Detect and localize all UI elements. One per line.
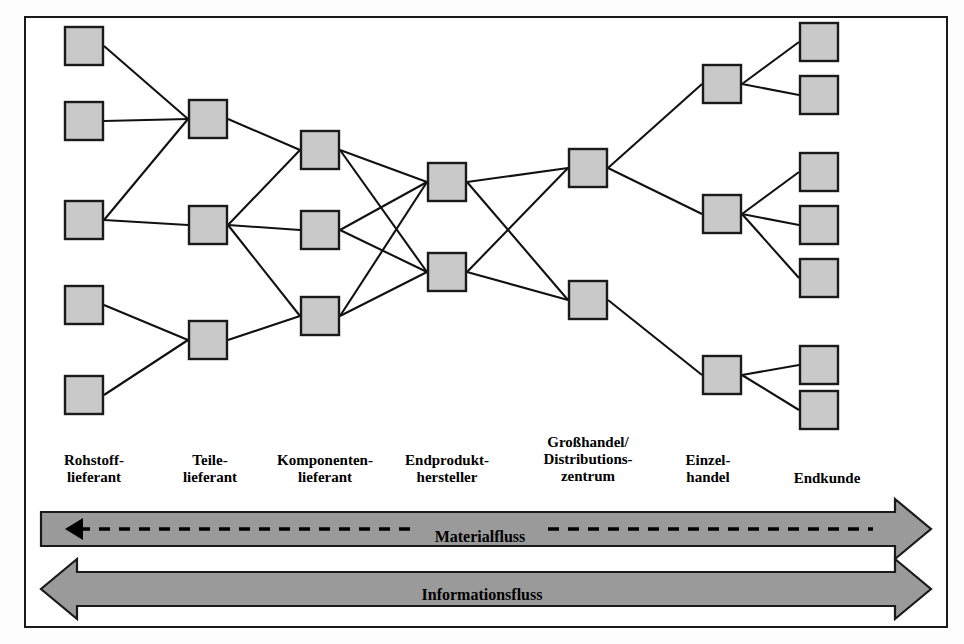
node-e2[interactable] [428, 253, 466, 291]
node-g2[interactable] [569, 281, 607, 319]
node-k1[interactable] [301, 131, 339, 169]
edge-e1-g1 [467, 168, 568, 182]
node-c5[interactable] [800, 259, 838, 297]
node-k2[interactable] [301, 211, 339, 249]
node-box-e2[interactable] [428, 253, 466, 291]
node-c3[interactable] [800, 153, 838, 191]
node-box-t2[interactable] [189, 206, 227, 244]
node-h1[interactable] [703, 65, 741, 103]
node-box-g2[interactable] [569, 281, 607, 319]
node-box-c2[interactable] [800, 76, 838, 114]
network-canvas [0, 0, 964, 644]
node-t1[interactable] [189, 100, 227, 138]
node-r2[interactable] [65, 102, 103, 140]
column-label-endkunde: Endkunde [772, 470, 882, 487]
edge-e1-g2 [467, 182, 568, 300]
edge-t2-k2 [228, 225, 300, 230]
node-box-k3[interactable] [301, 297, 339, 335]
node-box-r4[interactable] [65, 286, 103, 324]
edge-r5-t3 [104, 340, 188, 395]
node-r4[interactable] [65, 286, 103, 324]
edge-r3-t2 [104, 220, 188, 225]
node-box-c7[interactable] [800, 391, 838, 429]
node-box-r5[interactable] [65, 376, 103, 414]
node-box-h1[interactable] [703, 65, 741, 103]
band-label-materialfluss: Materialfluss [420, 528, 540, 546]
edge-k1-e2 [340, 150, 427, 272]
column-label-endprodukthersteller: Endprodukt- hersteller [384, 452, 510, 486]
edge-r3-t1 [104, 119, 188, 220]
node-box-r3[interactable] [65, 201, 103, 239]
node-g1[interactable] [569, 149, 607, 187]
node-h3[interactable] [703, 356, 741, 394]
node-r3[interactable] [65, 201, 103, 239]
edge-h1-c1 [742, 42, 799, 84]
node-box-t1[interactable] [189, 100, 227, 138]
node-box-h2[interactable] [703, 195, 741, 233]
edge-t2-k3 [228, 225, 300, 316]
edge-r1-t1 [104, 46, 188, 119]
edge-g1-h1 [608, 84, 702, 168]
edge-h1-c2 [742, 84, 799, 95]
edge-t3-k3 [228, 316, 300, 340]
edge-h3-c6 [742, 365, 799, 375]
column-label-komponentenlieferant: Komponenten- lieferant [258, 452, 392, 486]
node-box-c4[interactable] [800, 206, 838, 244]
node-box-c3[interactable] [800, 153, 838, 191]
node-box-k2[interactable] [301, 211, 339, 249]
node-c4[interactable] [800, 206, 838, 244]
node-box-g1[interactable] [569, 149, 607, 187]
node-c7[interactable] [800, 391, 838, 429]
column-label-teilelieferant: Teile- lieferant [160, 452, 260, 486]
nodes-group [65, 23, 838, 429]
column-label-grosshandel: Großhandel/ Distributions- zentrum [520, 434, 656, 485]
node-box-t3[interactable] [189, 321, 227, 359]
node-r1[interactable] [65, 27, 103, 65]
node-box-c5[interactable] [800, 259, 838, 297]
band-label-informationsfluss: Informationsfluss [412, 586, 552, 604]
edge-t2-k1 [228, 150, 300, 225]
edge-g2-h3 [608, 300, 702, 375]
column-label-einzelhandel: Einzel- handel [660, 452, 756, 486]
edge-k2-e1 [340, 182, 427, 230]
node-e1[interactable] [428, 163, 466, 201]
node-h2[interactable] [703, 195, 741, 233]
node-box-r2[interactable] [65, 102, 103, 140]
node-c2[interactable] [800, 76, 838, 114]
node-c6[interactable] [800, 346, 838, 384]
edge-r4-t3 [104, 305, 188, 340]
node-k3[interactable] [301, 297, 339, 335]
edge-r2-t1 [104, 119, 188, 121]
edge-k3-e1 [340, 182, 427, 316]
edge-e2-g2 [467, 272, 568, 300]
edge-g1-h2 [608, 168, 702, 214]
node-box-h3[interactable] [703, 356, 741, 394]
node-t3[interactable] [189, 321, 227, 359]
node-box-k1[interactable] [301, 131, 339, 169]
edge-k1-e1 [340, 150, 427, 182]
node-box-c1[interactable] [800, 23, 838, 61]
edge-h2-c3 [742, 172, 799, 214]
edge-t1-k1 [228, 119, 300, 150]
node-box-c6[interactable] [800, 346, 838, 384]
node-box-r1[interactable] [65, 27, 103, 65]
node-c1[interactable] [800, 23, 838, 61]
edge-k2-e2 [340, 230, 427, 272]
node-r5[interactable] [65, 376, 103, 414]
edge-e2-g1 [467, 168, 568, 272]
node-t2[interactable] [189, 206, 227, 244]
edge-h3-c7 [742, 375, 799, 410]
node-box-e1[interactable] [428, 163, 466, 201]
diagram-root: Rohstoff- lieferantTeile- lieferantKompo… [0, 0, 964, 644]
column-label-rohstofflieferant: Rohstoff- lieferant [42, 452, 146, 486]
